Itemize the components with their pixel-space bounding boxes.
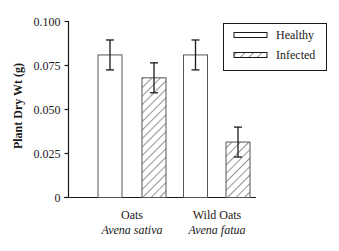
y-tick-label: 0.050	[34, 103, 61, 117]
y-tick-label: 0.075	[34, 59, 61, 73]
category-label-wild-oats: Wild Oats	[193, 208, 242, 222]
y-tick-label: 0	[55, 191, 61, 205]
bar-healthy-wild-oats	[184, 55, 208, 198]
legend-swatch-healthy	[234, 33, 267, 38]
bar-chart: Plant Dry Wt (g) 00.0250.0500.0750.100 O…	[0, 0, 339, 251]
category-species-oats: Avena sativa	[101, 223, 163, 237]
legend-swatch-infected	[234, 53, 267, 58]
category-species-wild-oats: Avena fatua	[188, 223, 246, 237]
bar-infected-oats	[142, 78, 166, 198]
y-axis-ticks: 00.0250.0500.0750.100	[34, 15, 69, 205]
legend: Healthy Infected	[224, 24, 327, 71]
category-label-oats: Oats	[121, 208, 143, 222]
bar-healthy-oats	[98, 55, 122, 198]
y-axis-label: Plant Dry Wt (g)	[11, 63, 25, 149]
y-tick-label: 0.025	[34, 147, 61, 161]
legend-label-infected: Infected	[276, 48, 315, 62]
y-tick-label: 0.100	[34, 15, 61, 29]
legend-label-healthy: Healthy	[276, 28, 314, 42]
